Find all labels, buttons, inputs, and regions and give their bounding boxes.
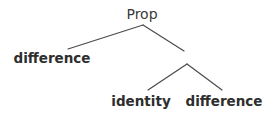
left-leaf-label: difference [14, 50, 91, 66]
inner-right-leaf-label: difference [186, 93, 263, 109]
tree-edge-inner-leaf2 [148, 64, 187, 90]
syntax-tree-diagram: Prop difference identity difference [0, 0, 275, 116]
inner-left-leaf-label: identity [111, 93, 171, 109]
tree-edge-root-inner [143, 25, 184, 51]
tree-edge-inner-leaf3 [187, 64, 222, 90]
tree-edge-root-leaf1 [68, 25, 143, 49]
root-node-label: Prop [126, 6, 157, 22]
tree-edges [68, 25, 222, 90]
